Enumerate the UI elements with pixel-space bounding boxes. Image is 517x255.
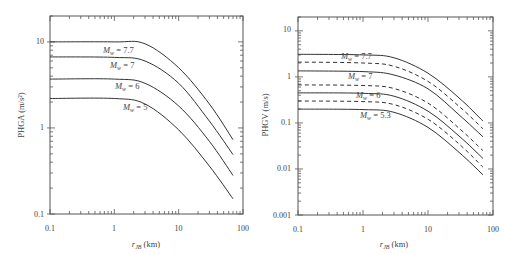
left-label-mw6: Mw = 6 <box>114 81 139 92</box>
right-label-mw77: Mw = 7.7 <box>340 51 372 62</box>
right-ytick-10: 10 <box>283 25 291 34</box>
left-ytick-0.1: 0.1 <box>34 210 44 219</box>
right-ytick-1: 1 <box>287 72 291 81</box>
right-xtick-100: 100 <box>487 225 499 234</box>
right-ytick-0.001: 0.001 <box>273 211 291 220</box>
left-plot-frame <box>50 16 243 214</box>
curve-m-w-5 <box>50 98 233 199</box>
left-axis-ticks <box>47 16 243 214</box>
right-xtick-0.1: 0.1 <box>293 225 303 234</box>
right-y-axis-label: PHGV (m/s) <box>260 93 270 136</box>
curve-m-w-7-7 <box>50 41 233 139</box>
left-label-mw77: Mw = 7.7 <box>102 45 134 56</box>
left-label-mw5: Mw = 5 <box>122 102 147 113</box>
left-y-axis-label: PHGA (m/s²) <box>16 92 26 137</box>
right-x-axis-label: rJB (km) <box>380 239 408 250</box>
right-ytick-0.01: 0.01 <box>277 164 291 173</box>
right-ytick-0.1: 0.1 <box>281 118 291 127</box>
left-xtick-1: 1 <box>112 224 116 233</box>
left-xtick-0.1: 0.1 <box>45 224 55 233</box>
left-xtick-100: 100 <box>237 224 249 233</box>
right-xtick-10: 10 <box>424 225 432 234</box>
right-label-mw53: Mw = 5.3 <box>359 110 391 121</box>
right-plot-frame <box>298 17 493 215</box>
left-ytick-10: 10 <box>36 37 44 46</box>
right-label-mw7: Mw = 7 <box>347 71 372 82</box>
left-curves <box>50 41 233 198</box>
left-x-axis-label: rJB (km) <box>132 239 160 250</box>
right-label-mw6: Mw = 6 <box>355 90 380 101</box>
left-label-mw7: Mw = 7 <box>109 60 134 71</box>
left-xtick-10: 10 <box>175 224 183 233</box>
right-plot: 10 1 0.1 0.01 0.001 0.1 1 10 100 rJB (km… <box>260 17 499 250</box>
left-ytick-1: 1 <box>40 123 44 132</box>
right-xtick-1: 1 <box>361 225 365 234</box>
right-axis-ticks <box>295 17 493 215</box>
left-plot: 10 1 0.1 0.1 1 10 100 rJB (km) PHGA (m/s… <box>16 16 249 250</box>
